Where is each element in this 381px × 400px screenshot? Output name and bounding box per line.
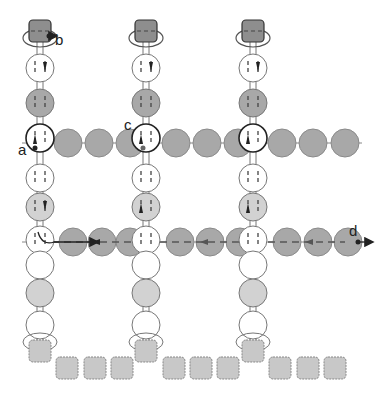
light-bead	[132, 193, 160, 221]
dark-bead	[193, 129, 221, 157]
dark-bead	[162, 129, 190, 157]
light-bead	[239, 193, 267, 221]
white-bead	[132, 164, 160, 192]
white-bead	[132, 124, 160, 152]
white-bead	[239, 124, 267, 152]
white-bead	[132, 54, 160, 82]
white-bead	[26, 54, 54, 82]
dark-bead	[54, 129, 82, 157]
dark-bead	[268, 129, 296, 157]
dark-bead	[331, 129, 359, 157]
loose-square-bead	[163, 357, 185, 379]
white-bead	[239, 226, 267, 254]
endpoint-b-dot	[47, 34, 52, 39]
white-bead	[132, 251, 160, 279]
dark-bead	[299, 129, 327, 157]
dark-bead	[239, 89, 267, 117]
white-bead	[239, 164, 267, 192]
bottom-square-bead	[242, 340, 264, 362]
loose-square-bead	[111, 357, 133, 379]
white-bead	[239, 54, 267, 82]
bottom-square-bead	[29, 340, 51, 362]
bead-lattice-diagram: b a c d	[0, 0, 381, 400]
loose-square-bead	[84, 357, 106, 379]
light-bead	[132, 279, 160, 307]
white-bead	[239, 251, 267, 279]
bottom-square-bead	[135, 340, 157, 362]
loose-square-bead	[297, 357, 319, 379]
label-a: a	[18, 141, 27, 158]
dark-bead	[85, 129, 113, 157]
white-bead	[26, 164, 54, 192]
vertical-strand-beads	[26, 54, 267, 339]
label-d: d	[349, 222, 357, 239]
label-c: c	[124, 116, 132, 133]
loose-square-bead	[190, 357, 212, 379]
light-bead	[26, 279, 54, 307]
horizontal-strand-beads	[52, 129, 362, 256]
white-bead	[26, 226, 54, 254]
light-bead	[239, 279, 267, 307]
loose-square-bead	[324, 357, 346, 379]
dark-bead	[26, 89, 54, 117]
loose-square-bead	[56, 357, 78, 379]
light-bead	[26, 193, 54, 221]
label-b: b	[55, 31, 63, 48]
white-bead	[26, 251, 54, 279]
square-beads	[23, 20, 346, 379]
endpoint-a-dot	[33, 146, 38, 151]
white-bead	[26, 124, 54, 152]
white-bead	[132, 226, 160, 254]
horizontal-strand-lines	[22, 143, 362, 242]
dark-bead	[132, 89, 160, 117]
loose-square-bead	[217, 357, 239, 379]
endpoint-c-dot	[141, 146, 146, 151]
loose-square-bead	[269, 357, 291, 379]
